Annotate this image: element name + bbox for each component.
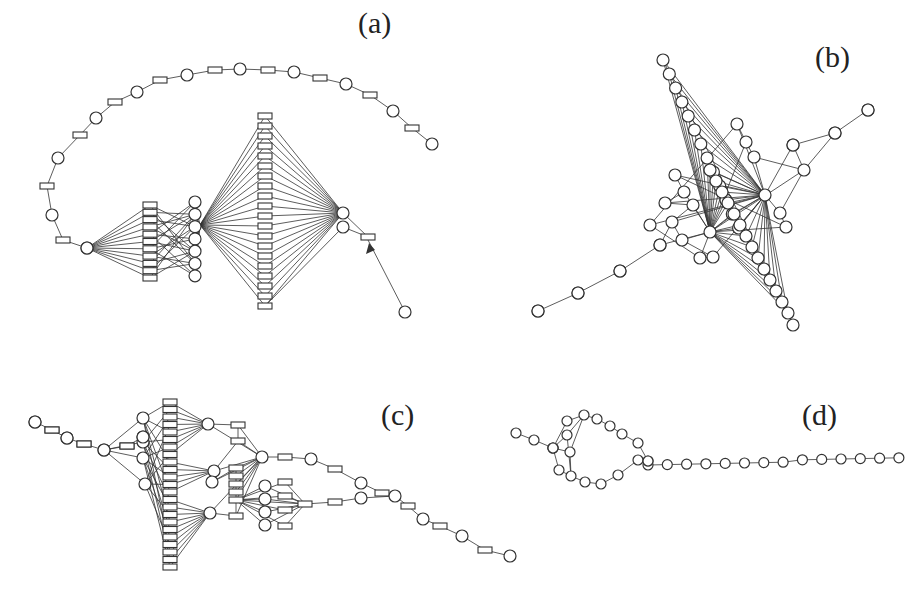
- place-node: [562, 416, 572, 426]
- place-node: [592, 414, 602, 424]
- place-node: [189, 258, 201, 270]
- figure-canvas: (a) (b) (c) (d): [0, 0, 923, 605]
- transition-node: [375, 490, 389, 496]
- place-node: [580, 477, 590, 487]
- place-node: [259, 480, 271, 492]
- transition-node: [163, 437, 177, 443]
- transition-node: [163, 564, 177, 570]
- place-node: [689, 124, 701, 136]
- transition-node: [328, 499, 342, 505]
- place-node: [710, 175, 722, 187]
- transition-node: [363, 92, 377, 98]
- place-node: [189, 221, 201, 233]
- transition-node: [258, 283, 272, 289]
- place-node: [417, 513, 429, 525]
- transition-node: [361, 234, 375, 240]
- place-node: [894, 453, 904, 463]
- place-node: [548, 443, 558, 453]
- transition-node: [163, 519, 177, 525]
- transition-node: [313, 75, 327, 81]
- place-node: [46, 209, 58, 221]
- place-node: [566, 471, 576, 481]
- transition-node: [163, 399, 177, 405]
- transition-node: [163, 414, 177, 420]
- transition-node: [77, 441, 91, 447]
- transition-node: [258, 203, 272, 209]
- place-node: [572, 287, 584, 299]
- transition-node: [258, 263, 272, 269]
- place-node: [90, 112, 102, 124]
- place-node: [98, 444, 110, 456]
- transition-node: [143, 217, 157, 223]
- place-node: [259, 519, 271, 531]
- place-node: [764, 274, 776, 286]
- transition-node: [478, 547, 492, 553]
- place-node: [426, 138, 438, 150]
- place-node: [81, 242, 93, 254]
- transition-node: [163, 429, 177, 435]
- place-node: [208, 465, 220, 477]
- transition-node: [143, 260, 157, 266]
- transition-node: [143, 231, 157, 237]
- transition-node: [231, 438, 245, 444]
- place-node: [774, 207, 786, 219]
- transition-node: [163, 542, 177, 548]
- transition-node: [258, 143, 272, 149]
- transition-node: [143, 209, 157, 215]
- transition-node: [258, 303, 272, 309]
- place-node: [633, 455, 643, 465]
- transition-node: [405, 125, 419, 131]
- place-node: [189, 208, 201, 220]
- place-node: [137, 452, 149, 464]
- place-node: [617, 429, 627, 439]
- place-node: [554, 465, 564, 475]
- transition-node: [258, 173, 272, 179]
- transition-node: [278, 454, 292, 460]
- place-node: [259, 506, 271, 518]
- transition-node: [298, 501, 312, 507]
- transition-node: [258, 293, 272, 299]
- transition-node: [143, 224, 157, 230]
- transition-node: [153, 77, 167, 83]
- transition-node: [278, 493, 292, 499]
- place-node: [720, 458, 730, 468]
- place-node: [131, 86, 143, 98]
- place-node: [759, 458, 769, 468]
- place-node: [782, 307, 794, 319]
- transition-node: [163, 482, 177, 488]
- place-node: [862, 104, 874, 116]
- transition-node: [258, 193, 272, 199]
- transition-node: [258, 253, 272, 259]
- transition-node: [328, 466, 342, 472]
- place-node: [731, 118, 743, 130]
- transition-node: [40, 183, 54, 189]
- transition-node: [163, 407, 177, 413]
- transition-node: [258, 113, 272, 119]
- place-node: [305, 453, 317, 465]
- place-node: [529, 435, 539, 445]
- place-node: [337, 207, 349, 219]
- place-node: [707, 251, 719, 263]
- place-node: [613, 470, 623, 480]
- panel-label-d: (d): [802, 398, 837, 432]
- transition-node: [73, 132, 87, 138]
- transition-node: [163, 549, 177, 555]
- place-node: [565, 447, 575, 457]
- place-node: [662, 460, 672, 470]
- place-node: [189, 245, 201, 257]
- place-node: [137, 412, 149, 424]
- place-node: [740, 136, 752, 148]
- place-node: [701, 459, 711, 469]
- transition-node: [433, 523, 447, 529]
- place-node: [504, 550, 516, 562]
- place-node: [748, 151, 760, 163]
- place-node: [817, 454, 827, 464]
- transition-node: [258, 183, 272, 189]
- transition-node: [143, 275, 157, 281]
- place-node: [787, 139, 799, 151]
- place-node: [704, 226, 716, 238]
- place-node: [670, 82, 682, 94]
- transition-node: [401, 503, 415, 509]
- place-node: [511, 428, 521, 438]
- place-node: [682, 110, 694, 122]
